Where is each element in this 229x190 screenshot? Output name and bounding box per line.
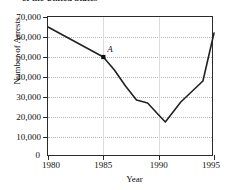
- y-tick-label-30000: 30,000: [16, 93, 41, 102]
- x-tick-label-1980: 1980: [42, 161, 60, 170]
- x-tick-label-1985: 1985: [94, 161, 112, 170]
- y-tick-label-10000: 10,000: [16, 133, 41, 142]
- y-tick-label-20000: 20,000: [16, 113, 41, 122]
- x-tick-label-1990: 1990: [150, 161, 168, 170]
- plot-area: 70,000 60,000 50,000 40,000 30,000 20,00…: [47, 16, 213, 156]
- chart-figure: of the United States Number of Arrests 7…: [0, 0, 229, 190]
- y-tick-label-50000: 50,000: [16, 53, 41, 62]
- x-axis-title: Year: [40, 174, 229, 184]
- y-tick-label-40000: 40,000: [16, 73, 41, 82]
- chart-title-text: of the United States: [22, 0, 162, 3]
- point-a-label: A: [107, 45, 113, 54]
- chart-title-clipped: of the United States: [22, 0, 162, 3]
- point-a-marker: [101, 55, 105, 59]
- arrests-line-series: [48, 17, 214, 157]
- y-tick-label-70000: 70,000: [16, 13, 41, 22]
- y-tick-label-0: 0: [36, 151, 44, 160]
- y-tick-label-60000: 60,000: [16, 33, 41, 42]
- x-tick-label-1995: 1995: [202, 161, 220, 170]
